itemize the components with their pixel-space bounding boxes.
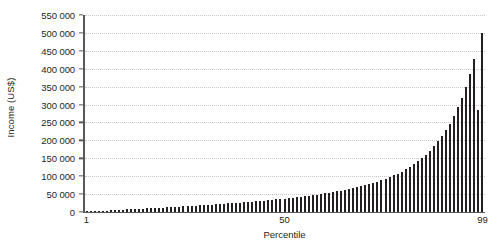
y-axis-tick-mark [79,86,83,87]
y-axis-tick-label: 400 000 [41,63,75,74]
bar [296,197,298,212]
y-axis-tick-mark [79,14,83,15]
y-axis-tick-label: 100 000 [41,171,75,182]
bar [473,59,475,212]
bar [389,177,391,212]
bar [352,188,354,212]
bar [332,192,334,212]
bar [429,151,431,212]
y-axis-tick-mark [79,158,83,159]
bar-series [85,15,485,212]
bar [368,184,370,212]
bar [469,74,471,212]
bar [340,191,342,212]
y-axis-tick-labels: 050 000100 000150 000200 000250 000300 0… [22,0,79,220]
bar [328,193,330,212]
bar [247,202,249,212]
y-axis-tick-mark [79,140,83,141]
bar [413,164,415,212]
bar [421,158,423,212]
x-axis-title: Percentile [85,229,485,240]
x-axis-tick-label: 99 [477,214,488,225]
bar [360,186,362,212]
plot-area [85,15,485,212]
bar [279,199,281,212]
bar [308,196,310,212]
bar [300,197,302,212]
y-axis-tick-label: 550 000 [41,10,75,21]
bar [263,201,265,212]
bar [288,198,290,212]
bar [251,202,253,212]
y-axis-tick-label: 150 000 [41,153,75,164]
bar [477,110,479,212]
y-axis-tick-label: 300 000 [41,99,75,110]
bar [481,33,483,212]
y-axis-tick-label: 500 000 [41,27,75,38]
y-axis-tick-mark [79,104,83,105]
x-axis-tick-label: 50 [279,214,290,225]
bar [405,169,407,212]
y-axis-tick-mark [79,176,83,177]
bar [316,195,318,212]
bar [457,107,459,212]
y-axis-tick-label: 250 000 [41,117,75,128]
bar [336,191,338,212]
bar [433,146,435,212]
income-percentile-bar-chart: Income (US$) 050 000100 000150 000200 00… [0,0,500,251]
y-axis-title-text: Income (US$) [6,78,17,138]
bar [437,141,439,212]
bar [271,200,273,212]
bar [385,179,387,212]
bar [284,199,286,212]
bar [255,201,257,212]
x-axis-tick-label: 1 [84,214,89,225]
bar [409,167,411,212]
y-axis-tick-label: 200 000 [41,135,75,146]
bar [267,200,269,212]
bar [453,116,455,212]
y-axis-tick-label: 350 000 [41,81,75,92]
bar [393,175,395,212]
y-axis-tick-mark [79,68,83,69]
bar [348,189,350,212]
bar [275,199,277,212]
y-axis-tick-mark [79,32,83,33]
y-axis-tick-mark [79,122,83,123]
bar [312,195,314,212]
bar [441,136,443,212]
bar [449,124,451,212]
bar [461,98,463,212]
bar [259,201,261,212]
bar [364,185,366,212]
y-axis-tick-mark [79,50,83,51]
y-axis-tick-mark [79,193,83,194]
bar [372,183,374,212]
bar [445,130,447,212]
bar [417,161,419,212]
bar [320,194,322,212]
bar [465,87,467,212]
y-axis-tick-label: 50 000 [47,189,75,200]
bar [380,180,382,212]
bar [425,155,427,212]
x-axis-line [83,212,485,214]
y-axis-title: Income (US$) [0,0,22,215]
y-axis-tick-label: 450 000 [41,45,75,56]
bar [324,193,326,212]
bar [397,174,399,212]
bar [304,196,306,212]
bar [344,190,346,212]
bar [356,187,358,212]
bar [376,182,378,212]
x-axis-tick-labels: 15099 [0,214,500,228]
bar [401,172,403,212]
bar [292,198,294,212]
